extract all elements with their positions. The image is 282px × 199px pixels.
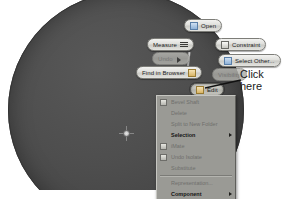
context-menu-item-undo-isolate-label: Undo Isolate — [171, 155, 202, 161]
context-menu-item-selection-label: Selection — [171, 133, 195, 139]
context-menu-item-delete-label: Delete — [171, 111, 187, 117]
context-menu-item-imate-label: iMate — [171, 144, 184, 150]
center-point-marker[interactable] — [123, 130, 130, 137]
marking-menu-find-in-browser-label: Find in Browser — [142, 70, 185, 76]
context-menu-item-substitute-label: Substitute — [171, 166, 195, 172]
annotation-click-here: Click here — [240, 68, 264, 92]
browser-icon — [188, 69, 196, 77]
context-menu-separator — [160, 175, 232, 177]
context-menu-item-substitute[interactable]: Substitute — [157, 163, 235, 174]
context-menu-item-component-label: Component — [171, 192, 202, 198]
marking-menu-find-in-browser-button[interactable]: Find in Browser — [136, 66, 202, 79]
marking-menu-undo-button[interactable]: Undo — [152, 52, 190, 65]
undo-isolate-icon — [160, 154, 167, 161]
annotation-line-1: Click — [240, 68, 264, 80]
annotation-line-2: here — [240, 80, 264, 92]
viewport-bottom-edge — [0, 190, 282, 199]
submenu-arrow-icon — [229, 133, 232, 137]
context-menu-item-representation[interactable]: Representation... — [157, 178, 235, 189]
marking-menu-measure-button[interactable]: Measure — [147, 38, 194, 51]
context-menu-item-bevel-shaft-label: Bevel Shaft — [171, 100, 199, 106]
context-menu[interactable]: Bevel Shaft Delete Split to New Folder S… — [156, 95, 236, 199]
context-menu-item-split-to-new-folder-label: Split to New Folder — [171, 122, 217, 128]
marking-menu-measure-label: Measure — [153, 42, 177, 48]
edit-icon — [196, 86, 204, 94]
marking-menu-select-other-button[interactable]: Select Other... — [218, 54, 281, 67]
marking-menu-select-other-label: Select Other... — [235, 58, 275, 64]
context-menu-item-selection[interactable]: Selection — [157, 130, 235, 141]
context-menu-item-imate[interactable]: iMate — [157, 141, 235, 152]
submenu-arrow-icon — [229, 192, 232, 196]
context-menu-item-undo-isolate[interactable]: Undo Isolate — [157, 152, 235, 163]
select-other-icon — [224, 57, 232, 65]
marking-menu-open-button[interactable]: Open — [184, 19, 222, 32]
constraint-icon — [221, 41, 229, 49]
marking-menu-constraint-label: Constraint — [232, 42, 260, 48]
marking-menu-undo-label: Undo — [158, 56, 173, 62]
imate-icon — [160, 143, 167, 150]
context-menu-item-component[interactable]: Component — [157, 189, 235, 199]
screenshot-root: Open Measure Undo Find in Browser Constr… — [0, 0, 282, 199]
undo-icon — [176, 55, 184, 63]
part-icon — [160, 99, 167, 106]
cad-viewport[interactable] — [0, 0, 282, 199]
marking-menu-constraint-button[interactable]: Constraint — [215, 38, 266, 51]
ruler-icon — [180, 41, 188, 49]
context-menu-item-split-to-new-folder[interactable]: Split to New Folder — [157, 119, 235, 130]
marking-menu-edit-label: Edit — [207, 87, 218, 93]
context-menu-item-bevel-shaft[interactable]: Bevel Shaft — [157, 97, 235, 108]
document-icon — [190, 22, 198, 30]
marking-menu-visibility-label: Visibility — [218, 72, 241, 78]
marking-menu-open-label: Open — [201, 23, 216, 29]
context-menu-item-delete[interactable]: Delete — [157, 108, 235, 119]
context-menu-item-representation-label: Representation... — [171, 181, 213, 187]
